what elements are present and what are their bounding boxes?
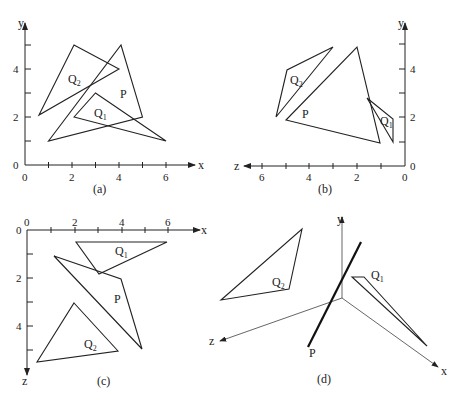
x-tick-0: 0: [22, 171, 28, 183]
plane-p-edge: [308, 242, 361, 347]
polygon-q2: [221, 229, 302, 300]
polygon-q2: [37, 303, 118, 362]
z-tick-0: 0: [16, 224, 22, 236]
x-tick-6: 6: [165, 216, 171, 228]
label-q1: Q1: [371, 268, 384, 284]
z-tick-2: 2: [354, 171, 360, 183]
label-p: P: [114, 292, 121, 306]
z-ticks: [27, 254, 33, 350]
label-q2: Q2: [84, 337, 97, 353]
label-q2: Q2: [272, 275, 285, 291]
panel-b: 0 2 4 6 0 2 4 z y Q2 P Q1 (b): [234, 16, 416, 196]
label-p: P: [302, 107, 309, 121]
polygon-q1: [352, 277, 427, 346]
x-axis-label: x: [198, 158, 204, 172]
caption-d: (d): [317, 372, 331, 386]
x-tick-0: 0: [24, 216, 30, 228]
panel-d: y x z Q2 P Q1 (d): [209, 212, 447, 386]
x-axis-label: x: [201, 223, 207, 237]
label-p: P: [120, 87, 127, 101]
z-tick-4: 4: [306, 171, 312, 183]
x-axis-label: x: [441, 364, 447, 378]
figure-canvas: 0 2 4 6 0 2 4 x y Q2 P Q1 (a): [0, 0, 464, 403]
z-tick-2: 2: [16, 272, 22, 284]
panel-c: 0 2 4 6 0 2 4 x z Q1 P Q2 (c): [16, 216, 207, 388]
y-tick-0: 0: [13, 159, 19, 171]
y-tick-0: 0: [410, 160, 416, 172]
polygon-p: [286, 47, 380, 143]
caption-b: (b): [318, 182, 332, 196]
polygon-p: [54, 256, 142, 349]
label-q2: Q2: [68, 72, 81, 88]
caption-c: (c): [97, 374, 110, 388]
x-axis: [342, 298, 438, 367]
label-q2: Q2: [290, 73, 303, 89]
z-tick-6: 6: [259, 171, 265, 183]
z-axis: [220, 298, 342, 341]
y-tick-2: 2: [13, 111, 19, 123]
z-axis-label: z: [234, 159, 239, 173]
z-tick-4: 4: [16, 320, 22, 332]
y-axis-label: y: [18, 16, 24, 30]
y-axis-label: y: [337, 212, 343, 226]
z-axis-label: z: [22, 374, 27, 388]
x-tick-4: 4: [116, 171, 122, 183]
label-p: P: [309, 346, 316, 360]
y-tick-2: 2: [410, 111, 416, 123]
y-ticks: [25, 45, 31, 141]
z-tick-0: 0: [402, 171, 408, 183]
label-q1: Q1: [380, 114, 393, 130]
caption-a: (a): [93, 182, 106, 196]
y-ticks: [399, 44, 405, 142]
x-tick-2: 2: [72, 216, 78, 228]
z-axis-label: z: [209, 334, 214, 348]
y-tick-4: 4: [410, 63, 416, 75]
y-tick-4: 4: [13, 63, 19, 75]
label-q1: Q1: [115, 244, 128, 260]
x-tick-6: 6: [163, 171, 169, 183]
panel-a: 0 2 4 6 0 2 4 x y Q2 P Q1 (a): [13, 16, 204, 196]
y-axis-label: y: [398, 16, 404, 30]
x-tick-4: 4: [119, 216, 125, 228]
label-q1: Q1: [94, 106, 107, 122]
x-tick-2: 2: [69, 171, 75, 183]
